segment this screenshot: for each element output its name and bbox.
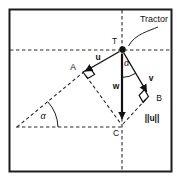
label-u-magnitude: ||u|| [145,113,160,123]
point-T-dot [119,46,125,52]
vector-u [86,52,120,72]
alpha-arc-at-T [122,73,136,77]
tractor-leader-curve [129,27,159,46]
label-tractor: Tractor [140,14,168,24]
label-alpha-bottom-left: α [40,111,46,121]
u-extension-dashed-line [17,73,83,128]
figure-border [10,10,172,172]
label-vector-w: w [112,81,120,91]
label-vector-u: u [95,52,100,62]
label-alpha-at-T: α [124,58,130,68]
label-point-B: B [156,93,162,103]
label-point-T: T [112,36,117,46]
alpha-arc-bottom-left [48,102,58,128]
label-point-C: C [113,128,119,138]
vector-diagram-figure: Tractor T A B C u v w α α ||u|| [0,0,179,180]
diagram-canvas: Tractor T A B C u v w α α ||u|| [0,0,179,180]
label-point-A: A [70,62,76,72]
label-vector-v: v [149,73,154,83]
C-to-B-dashed-line [123,99,146,124]
right-angle-mark-B [139,90,148,103]
